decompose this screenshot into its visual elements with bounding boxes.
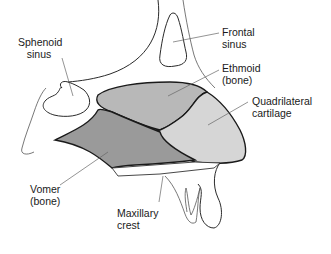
- lip-outline: [165, 176, 200, 223]
- skull-base-outline: [68, 0, 159, 82]
- leader-maxillary: [159, 176, 163, 202]
- posterior-wall: [22, 88, 46, 154]
- nose-columella: [198, 163, 221, 228]
- leader-frontal: [173, 33, 219, 42]
- label-ethmoid-bone: Ethmoid (bone): [222, 63, 261, 86]
- sphenoid-sinus: [43, 81, 89, 116]
- label-maxillary-crest: Maxillary crest: [117, 208, 158, 231]
- label-vomer-bone: Vomer (bone): [30, 184, 60, 207]
- leader-vomer: [60, 152, 108, 185]
- label-frontal-sinus: Frontal sinus: [222, 27, 255, 50]
- label-sphenoid-sinus: Sphenoid sinus: [18, 37, 62, 60]
- leader-sphenoid: [62, 58, 73, 96]
- label-quadrilateral-cartilage: Quadrilateral cartilage: [252, 96, 312, 119]
